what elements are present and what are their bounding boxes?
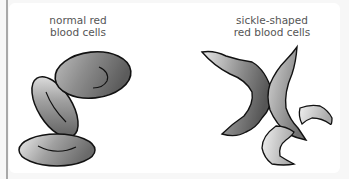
normal-cell-bottom (19, 134, 95, 166)
sickle-cell-left-arm (202, 52, 272, 136)
sickle-cell-right-arm (268, 47, 306, 140)
cells-illustration (0, 0, 349, 179)
sickle-cell-small-right (299, 105, 332, 124)
sickle-cell-bottom (262, 126, 294, 165)
